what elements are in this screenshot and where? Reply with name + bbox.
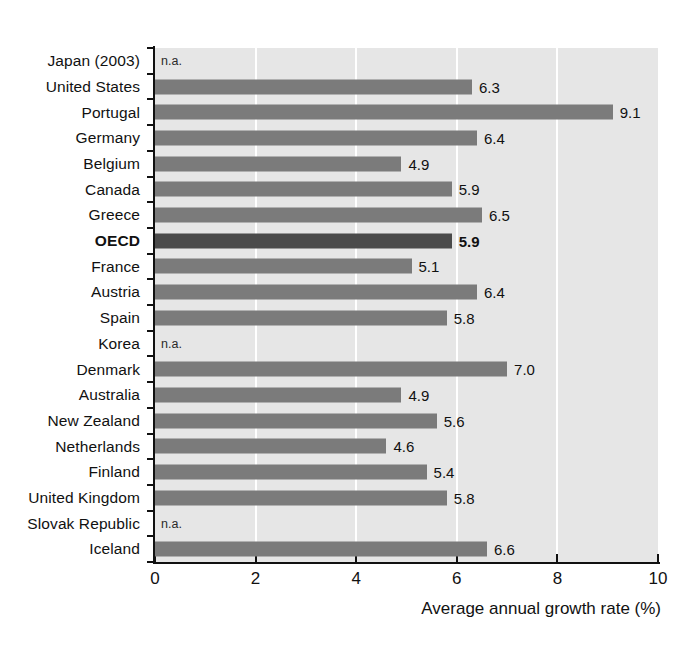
bar [155, 156, 401, 171]
category-label: Australia [0, 382, 148, 408]
bar-value-label: 6.5 [489, 208, 510, 223]
bar-value-label: 4.9 [408, 156, 429, 171]
na-value-label: n.a. [161, 337, 182, 350]
bar-row: 6.4 [155, 125, 658, 151]
bar-row: 4.9 [155, 151, 658, 177]
bar [155, 182, 452, 197]
category-label: France [0, 254, 148, 280]
bar-value-label: 5.6 [444, 413, 465, 428]
bar [155, 233, 452, 248]
y-axis-tick [147, 98, 155, 100]
category-label: Finland [0, 459, 148, 485]
x-axis-line [153, 562, 660, 564]
bars-container: n.a.6.39.16.44.95.96.55.95.16.45.8n.a.7.… [155, 48, 658, 562]
bar [155, 130, 477, 145]
bar-value-label: 5.4 [434, 465, 455, 480]
category-label: New Zealand [0, 408, 148, 434]
bar [155, 490, 447, 505]
bar-row: 5.9 [155, 177, 658, 203]
y-axis-tick [147, 458, 155, 460]
bar-row: 6.4 [155, 279, 658, 305]
category-label: Austria [0, 279, 148, 305]
bar [155, 413, 437, 428]
bar [155, 465, 427, 480]
y-axis-tick [147, 47, 155, 49]
y-axis-tick [147, 304, 155, 306]
y-axis-tick [147, 150, 155, 152]
bar [155, 105, 613, 120]
bar-row: 4.6 [155, 434, 658, 460]
category-axis-labels: Japan (2003)United StatesPortugalGermany… [0, 48, 148, 562]
y-axis-tick [147, 330, 155, 332]
bar-value-label: 6.6 [494, 542, 515, 557]
bar [155, 79, 472, 94]
bar-row: n.a. [155, 511, 658, 537]
y-axis-tick [147, 73, 155, 75]
category-label: Korea [0, 331, 148, 357]
x-axis-tick-label: 0 [150, 570, 159, 587]
y-axis-tick [147, 124, 155, 126]
bar-chart: Japan (2003)United StatesPortugalGermany… [0, 0, 683, 645]
x-axis-title: Average annual growth rate (%) [421, 600, 661, 617]
bar-value-label: 5.8 [454, 310, 475, 325]
bar-row: 5.9 [155, 228, 658, 254]
bar-value-label: 5.1 [419, 259, 440, 274]
bar-value-label: 5.9 [459, 233, 480, 248]
bar-value-label: 9.1 [620, 105, 641, 120]
y-axis-tick [147, 227, 155, 229]
y-axis-tick [147, 355, 155, 357]
x-axis-tick-label: 10 [649, 570, 668, 587]
category-label: United States [0, 74, 148, 100]
bar-row: 4.9 [155, 382, 658, 408]
y-axis-tick [147, 484, 155, 486]
na-value-label: n.a. [161, 517, 182, 530]
x-axis-tick-label: 2 [251, 570, 260, 587]
bar [155, 387, 401, 402]
plot-area: n.a.6.39.16.44.95.96.55.95.16.45.8n.a.7.… [155, 48, 658, 562]
y-axis-tick [147, 201, 155, 203]
category-label: Belgium [0, 151, 148, 177]
bar-row: n.a. [155, 48, 658, 74]
bar-value-label: 6.4 [484, 285, 505, 300]
y-axis-tick [147, 510, 155, 512]
bar-value-label: 4.9 [408, 387, 429, 402]
category-label: Canada [0, 177, 148, 203]
x-axis-tick-label: 8 [553, 570, 562, 587]
bar-value-label: 6.3 [479, 79, 500, 94]
category-label: Germany [0, 125, 148, 151]
y-axis-tick [147, 535, 155, 537]
category-label: OECD [0, 228, 148, 254]
x-axis-tick-label: 4 [351, 570, 360, 587]
x-axis-tick-label: 6 [452, 570, 461, 587]
bar-value-label: 7.0 [514, 362, 535, 377]
bar [155, 259, 412, 274]
bar-row: 6.3 [155, 74, 658, 100]
category-label: Portugal [0, 99, 148, 125]
category-label: Iceland [0, 536, 148, 562]
bar-row: 5.8 [155, 485, 658, 511]
bar-value-label: 4.6 [393, 439, 414, 454]
category-label: Japan (2003) [0, 48, 148, 74]
category-label: Greece [0, 202, 148, 228]
category-label: Denmark [0, 356, 148, 382]
bar [155, 285, 477, 300]
bar-row: 5.4 [155, 459, 658, 485]
bar-row: 6.6 [155, 536, 658, 562]
y-axis-tick [147, 381, 155, 383]
bar [155, 362, 507, 377]
bar [155, 310, 447, 325]
bar-row: 5.1 [155, 254, 658, 280]
y-axis-tick [147, 278, 155, 280]
bar [155, 542, 487, 557]
bar-value-label: 5.9 [459, 182, 480, 197]
y-axis-tick [147, 253, 155, 255]
na-value-label: n.a. [161, 55, 182, 68]
y-axis-tick [147, 176, 155, 178]
category-label: Netherlands [0, 434, 148, 460]
bar-value-label: 5.8 [454, 490, 475, 505]
bar [155, 208, 482, 223]
y-axis-tick [147, 433, 155, 435]
bar-row: 5.6 [155, 408, 658, 434]
bar-row: 6.5 [155, 202, 658, 228]
bar [155, 439, 386, 454]
